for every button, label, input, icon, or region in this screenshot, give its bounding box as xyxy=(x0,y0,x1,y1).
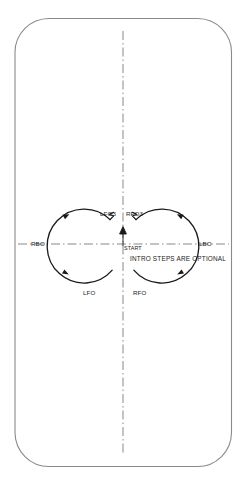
label-start: START xyxy=(124,245,142,251)
label-lfo: LFO xyxy=(83,289,96,296)
label-lfo3: LFO3 xyxy=(100,210,116,217)
label-lbo: LBO xyxy=(199,240,212,247)
label-rbo: RBO xyxy=(31,240,45,247)
label-rfo3: RFO3 xyxy=(126,210,144,217)
label-rfo: RFO xyxy=(133,289,147,296)
skating-pattern-diagram: RBO LFO3 RFO3 LBO LFO RFO START INTRO ST… xyxy=(0,0,246,485)
label-intro-note: INTRO STEPS ARE OPTIONAL xyxy=(130,255,226,262)
rink-diagram-canvas: RBO LFO3 RFO3 LBO LFO RFO START INTRO ST… xyxy=(0,0,246,485)
